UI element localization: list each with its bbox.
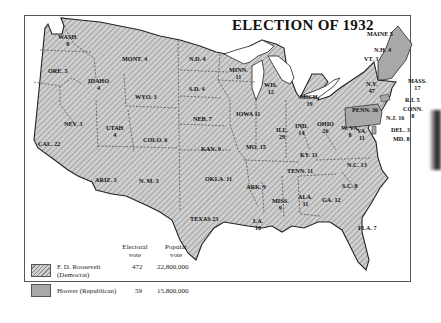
legend-header-popular: Popularvote: [158, 243, 194, 259]
map-title: ELECTION OF 1932: [232, 17, 374, 34]
state-label-del: DEL. 3: [391, 126, 410, 133]
state-label-nh: N.H. 4: [374, 46, 391, 53]
state-label-texas: TEXAS 23: [190, 215, 218, 222]
legend-popular-hoover: 15,800,000: [157, 287, 189, 295]
state-label-wyo: WYO. 3: [135, 93, 157, 100]
state-label-utah: UTAH4: [106, 124, 123, 138]
state-label-la: LA.10: [253, 217, 263, 231]
state-label-ala: ALA.11: [298, 193, 313, 207]
legend-header-electoral: Electoralvote: [117, 243, 153, 259]
state-label-minn: MINN.11: [229, 66, 248, 80]
state-label-sd: S.D. 4: [189, 85, 205, 92]
state-label-fla: FLA. 7: [358, 224, 377, 231]
state-label-neb: NEB. 7: [193, 115, 212, 122]
state-label-nj: N.J. 16: [386, 114, 404, 121]
state-label-ind: IND.14: [295, 122, 308, 136]
state-label-ohio: OHIO26: [317, 120, 334, 134]
state-label-nm: N. M. 3: [139, 177, 159, 184]
state-label-ri: R.I. 5: [405, 96, 420, 103]
state-label-penn: PENN. 36: [352, 106, 378, 113]
legend-electoral-roosevelt: 472: [132, 263, 143, 271]
state-label-miss: MISS.9: [272, 197, 289, 211]
state-label-ny: N.Y.47: [366, 80, 377, 94]
state-label-md: MD. 8: [393, 135, 410, 142]
state-label-wva: W. VA.8: [341, 124, 359, 138]
state-label-sc: S.C. 8: [342, 182, 358, 189]
state-label-maine: MAINE 5: [367, 30, 393, 37]
page-edge-shadow: [430, 110, 441, 170]
state-label-nc: N.C. 13: [347, 161, 367, 168]
democrat-territory: [34, 18, 396, 270]
legend-candidate-hoover: Hoover (Republican): [57, 287, 116, 295]
legend-popular-roosevelt: 22,800,000: [157, 263, 189, 271]
state-label-mo: MO. 15: [246, 143, 266, 150]
state-label-ore: ORE. 5: [48, 67, 68, 74]
state-label-conn: CONN.8: [403, 105, 423, 119]
state-label-cal: CAL. 22: [38, 140, 60, 147]
state-label-tenn: TENN. 11: [287, 167, 313, 174]
state-label-okla: OKLA. 11: [205, 175, 232, 182]
state-label-ark: ARK. 9: [246, 183, 266, 190]
state-label-iowa: IOWA 11: [236, 110, 260, 117]
state-label-kan: KAN. 9: [201, 145, 221, 152]
state-label-ga: GA. 12: [322, 196, 341, 203]
state-label-wis: WIS.12: [264, 81, 278, 95]
state-label-mont: MONT. 4: [122, 55, 147, 62]
state-label-nd: N.D. 4: [189, 55, 206, 62]
state-label-ky: KY. 11: [300, 151, 318, 158]
state-label-ariz: ARIZ. 3: [95, 176, 117, 183]
legend-candidate-roosevelt: F. D. Roosevelt(Democrat): [57, 263, 100, 279]
state-label-wash: WASH.8: [58, 33, 78, 47]
state-label-mich: MICH.19: [300, 93, 319, 107]
state-label-ill: ILL.29: [276, 126, 288, 140]
legend-swatch-democrat: [31, 264, 51, 277]
state-label-mass: MASS.17: [408, 77, 427, 91]
state-label-idaho: IDAHO4: [88, 77, 109, 91]
legend-electoral-hoover: 59: [135, 287, 142, 295]
state-label-colo: COLO. 6: [143, 136, 167, 143]
state-label-nev: NEV. 3: [64, 120, 82, 127]
state-label-vt: VT. 3: [364, 55, 378, 62]
state-del-republican: [372, 126, 376, 134]
legend-swatch-republican: [31, 284, 51, 297]
